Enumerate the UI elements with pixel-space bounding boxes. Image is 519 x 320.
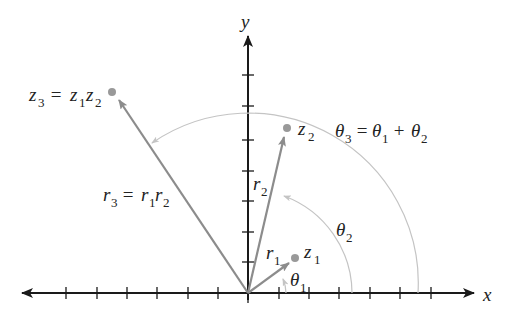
theta1-label: θ 1	[290, 269, 307, 295]
svg-text:z: z	[69, 84, 78, 105]
svg-text:r: r	[103, 184, 111, 205]
z1-point	[291, 254, 299, 262]
x-axis-label: x	[482, 284, 492, 305]
svg-text:2: 2	[346, 230, 353, 245]
svg-text:=: =	[46, 84, 66, 105]
svg-text:+: +	[389, 120, 409, 141]
svg-text:r: r	[253, 173, 261, 194]
z3-equation: z 3 = z 1 z 2	[28, 84, 102, 110]
svg-text:1: 1	[382, 131, 389, 146]
svg-text:θ: θ	[336, 219, 345, 240]
r3-vector	[119, 100, 248, 293]
theta3-equation: θ 3 = θ 1 + θ 2	[335, 120, 428, 146]
svg-text:θ: θ	[411, 120, 420, 141]
r3-equation: r 3 = r 1 r 2	[103, 184, 170, 210]
svg-text:1: 1	[79, 95, 86, 110]
svg-text:2: 2	[261, 184, 268, 199]
svg-text:1: 1	[274, 253, 281, 268]
svg-text:θ: θ	[372, 120, 381, 141]
y-axis-label: y	[239, 11, 250, 32]
svg-text:z: z	[28, 84, 37, 105]
svg-text:1: 1	[300, 280, 307, 295]
svg-text:2: 2	[95, 95, 102, 110]
svg-text:3: 3	[111, 195, 118, 210]
r2-label: r 2	[253, 173, 268, 199]
svg-text:3: 3	[38, 95, 45, 110]
svg-text:r: r	[141, 184, 149, 205]
z1-label: z 1	[303, 241, 321, 267]
svg-text:1: 1	[314, 252, 321, 267]
svg-text:z: z	[85, 84, 94, 105]
svg-text:=: =	[118, 184, 138, 205]
svg-text:2: 2	[308, 129, 315, 144]
svg-text:3: 3	[345, 131, 352, 146]
svg-text:2: 2	[163, 195, 170, 210]
z3-point	[108, 88, 116, 96]
svg-text:r: r	[266, 242, 274, 263]
svg-text:z: z	[297, 118, 306, 139]
r1-label: r 1	[266, 242, 281, 268]
z2-label: z 2	[297, 118, 315, 144]
theta1-arc	[283, 279, 286, 293]
complex-multiplication-diagram: x y z 1 z 2 r 1 r 2 θ 1 θ 2 z 3 = z 1 z …	[0, 0, 519, 320]
z2-point	[283, 124, 291, 132]
svg-text:r: r	[155, 184, 163, 205]
svg-text:θ: θ	[290, 269, 299, 290]
svg-text:=: =	[352, 120, 372, 141]
svg-text:θ: θ	[335, 120, 344, 141]
svg-text:2: 2	[421, 131, 428, 146]
svg-text:z: z	[303, 241, 312, 262]
